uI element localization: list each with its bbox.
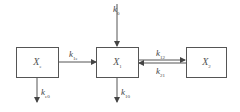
compartment-x2-label: X2 <box>202 56 211 69</box>
label-ke0: ke0 <box>41 88 50 99</box>
label-k1e: k1e <box>69 50 78 61</box>
compartment-xe-label: Xe <box>33 56 41 69</box>
label-k10: k10 <box>121 88 130 99</box>
compartment-x1-label: X1 <box>113 56 122 69</box>
label-k21: k21 <box>156 67 165 78</box>
label-k12: k12 <box>156 49 165 60</box>
compartment-x2: X2 <box>186 47 227 78</box>
label-k0: k0 <box>113 5 120 16</box>
compartment-x1: X1 <box>96 47 139 78</box>
compartment-xe: Xe <box>16 47 59 78</box>
